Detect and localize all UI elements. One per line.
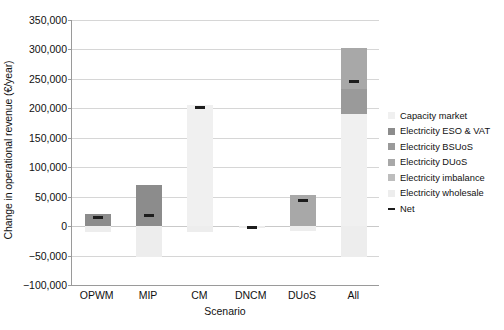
y-axis-tick-label: 250,000 <box>0 74 67 84</box>
y-axis-tick-label: 50,000 <box>0 192 67 202</box>
bar-segment <box>341 89 367 114</box>
bar-group[interactable] <box>290 20 316 285</box>
legend-item[interactable]: Electricity DUoS <box>388 155 504 171</box>
y-axis-tick <box>68 167 72 168</box>
plot-area <box>71 20 379 285</box>
bar-segment <box>290 226 316 231</box>
chart-legend: Capacity marketElectricity ESO & VATElec… <box>388 108 504 217</box>
gridline <box>72 226 379 227</box>
legend-item-label: Electricity DUoS <box>400 157 467 167</box>
net-marker <box>195 106 205 109</box>
bar-chart: Change in operational revenue (€/year) 3… <box>0 0 504 330</box>
y-axis-tick-label: 150,000 <box>0 133 67 143</box>
bar-segment <box>136 185 162 226</box>
y-axis-tick <box>68 138 72 139</box>
y-axis-tick <box>68 20 72 21</box>
bar-segment <box>341 226 367 257</box>
bar-segment <box>341 114 367 226</box>
y-axis-tick-label: 350,000 <box>0 15 67 25</box>
gridline <box>72 49 379 50</box>
x-axis-tick-label: All <box>313 289 393 301</box>
legend-swatch-icon <box>388 112 395 119</box>
gridline <box>72 197 379 198</box>
bar-group[interactable] <box>239 20 265 285</box>
legend-item-label: Net <box>400 204 414 214</box>
gridline <box>72 20 379 21</box>
legend-item[interactable]: Electricity imbalance <box>388 170 504 186</box>
gridline <box>72 167 379 168</box>
bar-group[interactable] <box>85 20 111 285</box>
legend-item[interactable]: Net <box>388 201 504 217</box>
bar-segment <box>136 226 162 257</box>
legend-item-label: Capacity market <box>400 111 467 121</box>
net-marker <box>298 199 308 202</box>
bar-group[interactable] <box>341 20 367 285</box>
gridline <box>72 79 379 80</box>
x-axis-title: Scenario <box>71 305 379 317</box>
legend-item[interactable]: Electricity BSUoS <box>388 139 504 155</box>
bar-segment <box>85 226 111 232</box>
legend-item[interactable]: Electricity wholesale <box>388 186 504 202</box>
bar-segment <box>187 105 213 226</box>
legend-item-label: Electricity imbalance <box>400 173 485 183</box>
y-axis-tick <box>68 285 72 286</box>
y-axis-tick-label: −50,000 <box>0 251 67 261</box>
gridline <box>72 108 379 109</box>
legend-swatch-icon <box>388 143 395 150</box>
y-axis-tick-label: 300,000 <box>0 44 67 54</box>
gridline <box>72 256 379 257</box>
legend-swatch-icon <box>388 174 395 181</box>
legend-swatch-icon <box>388 208 395 210</box>
net-marker <box>93 216 103 219</box>
legend-item[interactable]: Electricity ESO & VAT <box>388 124 504 140</box>
net-marker <box>349 80 359 83</box>
legend-item[interactable]: Capacity market <box>388 108 504 124</box>
legend-swatch-icon <box>388 128 395 135</box>
gridline <box>72 138 379 139</box>
y-axis-tick-label: 0 <box>0 221 67 231</box>
y-axis-tick <box>68 226 72 227</box>
y-axis-tick <box>68 49 72 50</box>
bar-segment <box>187 226 213 232</box>
y-axis-tick <box>68 256 72 257</box>
net-marker <box>247 226 257 229</box>
y-axis-tick <box>68 197 72 198</box>
y-axis-tick-label: 200,000 <box>0 103 67 113</box>
bar-group[interactable] <box>187 20 213 285</box>
legend-swatch-icon <box>388 159 395 166</box>
net-marker <box>144 214 154 217</box>
legend-item-label: Electricity wholesale <box>400 188 484 198</box>
y-axis-tick <box>68 79 72 80</box>
legend-swatch-icon <box>388 190 395 197</box>
legend-item-label: Electricity ESO & VAT <box>400 126 490 136</box>
y-axis-tick-label: 100,000 <box>0 162 67 172</box>
gridline <box>72 285 379 286</box>
bar-group[interactable] <box>136 20 162 285</box>
legend-item-label: Electricity BSUoS <box>400 142 473 152</box>
y-axis-tick <box>68 108 72 109</box>
